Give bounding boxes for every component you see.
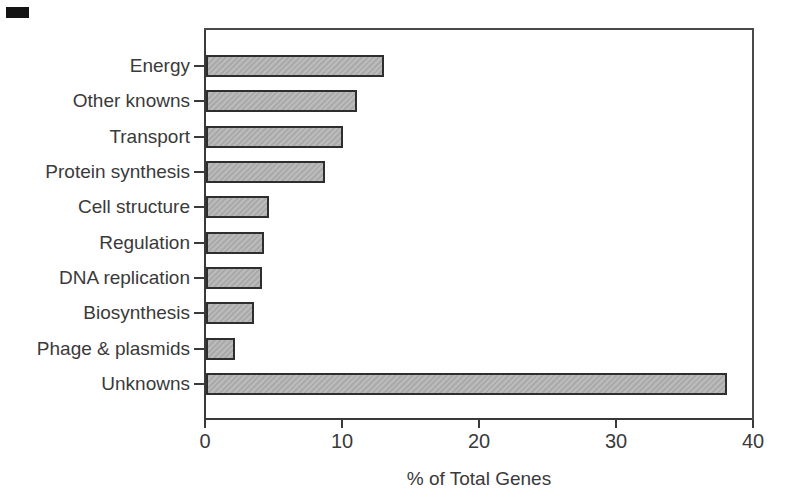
category-label: Energy xyxy=(130,53,190,79)
bar xyxy=(206,373,727,395)
x-tick xyxy=(752,420,754,428)
y-tick xyxy=(194,348,204,350)
bar xyxy=(206,196,269,218)
figure: EnergyOther knownsTransportProtein synth… xyxy=(0,0,796,502)
x-tick xyxy=(341,420,343,428)
bar xyxy=(206,126,343,148)
category-label: Other knowns xyxy=(73,88,190,114)
category-label: Protein synthesis xyxy=(45,159,190,185)
category-label: Regulation xyxy=(99,230,190,256)
x-tick xyxy=(615,420,617,428)
bar xyxy=(206,232,264,254)
y-tick xyxy=(194,312,204,314)
x-axis-title: % of Total Genes xyxy=(205,468,753,490)
y-tick xyxy=(194,65,204,67)
bar xyxy=(206,55,384,77)
y-tick xyxy=(194,100,204,102)
category-label: Phage & plasmids xyxy=(37,336,190,362)
x-tick-label: 30 xyxy=(586,430,646,453)
x-tick xyxy=(204,420,206,428)
x-tick-label: 0 xyxy=(175,430,235,453)
bar xyxy=(206,267,262,289)
bar xyxy=(206,90,357,112)
category-label: Transport xyxy=(109,124,190,150)
category-label: Cell structure xyxy=(78,194,190,220)
bar xyxy=(206,302,254,324)
x-tick-label: 40 xyxy=(723,430,783,453)
y-axis xyxy=(204,28,206,427)
y-tick xyxy=(194,277,204,279)
x-tick xyxy=(478,420,480,428)
category-label: Biosynthesis xyxy=(83,300,190,326)
top-frame xyxy=(204,28,754,30)
category-label: DNA replication xyxy=(59,265,190,291)
y-tick xyxy=(194,171,204,173)
right-frame xyxy=(752,28,754,427)
scan-artifact-mark xyxy=(6,7,29,18)
y-tick xyxy=(194,136,204,138)
bar xyxy=(206,161,325,183)
x-tick-label: 10 xyxy=(312,430,372,453)
y-tick xyxy=(194,383,204,385)
y-tick xyxy=(194,206,204,208)
category-label: Unknowns xyxy=(101,371,190,397)
bar xyxy=(206,338,235,360)
y-tick xyxy=(194,242,204,244)
x-tick-label: 20 xyxy=(449,430,509,453)
